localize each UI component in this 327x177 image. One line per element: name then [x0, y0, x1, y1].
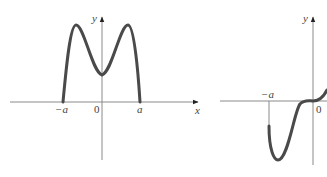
left-origin-label: 0: [94, 103, 100, 115]
left-graph: y x 0 −a a: [10, 12, 200, 160]
right-y-label: y: [302, 12, 308, 24]
left-y-label: y: [91, 12, 97, 24]
left-tick-a: a: [137, 103, 143, 115]
right-tick-neg-a: −a: [261, 88, 274, 100]
left-x-label: x: [194, 104, 200, 116]
right-origin-label: 0: [316, 103, 322, 115]
figure-canvas: y x 0 −a a y 0 −a: [0, 0, 327, 177]
left-tick-neg-a: −a: [55, 103, 68, 115]
right-graph: y 0 −a: [220, 12, 327, 165]
